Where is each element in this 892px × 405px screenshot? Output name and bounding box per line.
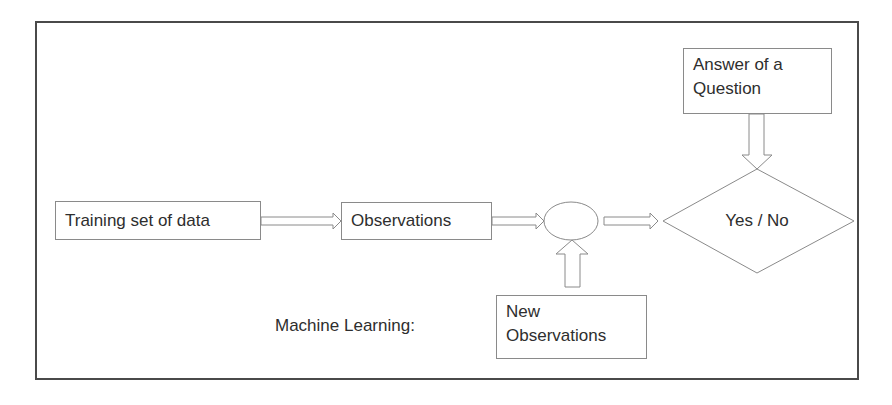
answer-label-line-1: Answer of a bbox=[693, 53, 822, 77]
arrow-right-icon bbox=[492, 213, 544, 229]
answer-node: Answer of a Question bbox=[683, 48, 832, 114]
arrow-down-icon bbox=[742, 114, 772, 169]
answer-label-line-2: Question bbox=[693, 77, 822, 101]
arrow-right-icon bbox=[604, 213, 658, 229]
new-observations-label-line-2: Observations bbox=[506, 324, 637, 348]
observations-label: Observations bbox=[351, 211, 451, 231]
training-set-node: Training set of data bbox=[55, 201, 261, 240]
arrow-up-icon bbox=[556, 240, 588, 287]
new-observations-node: New Observations bbox=[496, 295, 647, 359]
observations-node: Observations bbox=[341, 202, 492, 240]
decision-label: Yes / No bbox=[725, 211, 789, 231]
training-set-label: Training set of data bbox=[65, 211, 210, 231]
machine-learning-caption: Machine Learning: bbox=[275, 316, 415, 336]
arrow-right-icon bbox=[261, 213, 341, 229]
new-observations-label-line-1: New bbox=[506, 300, 637, 324]
process-ellipse bbox=[544, 202, 598, 240]
